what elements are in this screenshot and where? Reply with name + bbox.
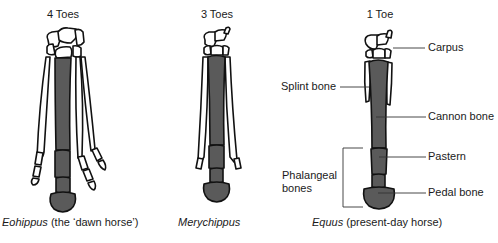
eohippus-genus: Eohippus — [2, 216, 48, 228]
label-phalangeal-bones: Phalangeal bones — [282, 169, 337, 195]
merychippus-caption: Merychippus — [178, 216, 240, 228]
equus-foot — [364, 30, 395, 209]
label-splint-bone: Splint bone — [281, 80, 336, 93]
label-pastern: Pastern — [428, 150, 466, 163]
eohippus-toe-count-label: 4 Toes — [33, 8, 93, 20]
label-cannon-bone: Cannon bone — [428, 110, 494, 123]
horse-foot-evolution-diagram — [0, 0, 498, 243]
merychippus-genus: Merychippus — [178, 216, 240, 228]
label-carpus: Carpus — [428, 41, 463, 54]
eohippus-caption: Eohippus (the ‘dawn horse’) — [2, 216, 138, 228]
eohippus-caption-rest: (the ‘dawn horse’) — [48, 216, 139, 228]
merychippus-toe-count-label: 3 Toes — [187, 8, 247, 20]
label-phalangeal-line1: Phalangeal — [282, 169, 337, 182]
label-phalangeal-line2: bones — [282, 182, 337, 195]
equus-toe-count-label: 1 Toe — [350, 8, 410, 20]
equus-caption-rest: (present-day horse) — [343, 216, 442, 228]
equus-caption: Equus (present-day horse) — [312, 216, 442, 228]
merychippus-foot — [196, 27, 241, 202]
equus-genus: Equus — [312, 216, 343, 228]
label-pedal-bone: Pedal bone — [428, 186, 484, 199]
eohippus-foot — [32, 28, 106, 212]
